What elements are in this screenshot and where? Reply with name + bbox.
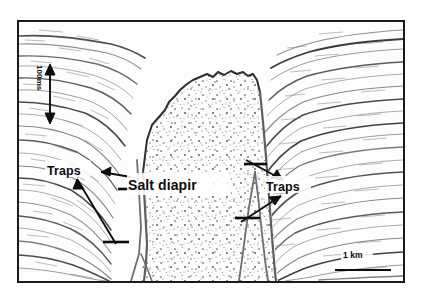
traps-label-left: Traps [47,164,81,178]
seismic-section-canvas [19,22,403,281]
scale-bar-label-vertical: 100ms [35,65,44,90]
figure-root: Salt diapir Traps Traps 1 km 100ms [0,0,423,298]
scale-bar-label-horizontal: 1 km [343,250,363,260]
seismic-section-frame [17,20,405,283]
traps-label-right: Traps [266,180,300,194]
salt-diapir-label: Salt diapir [128,177,197,193]
